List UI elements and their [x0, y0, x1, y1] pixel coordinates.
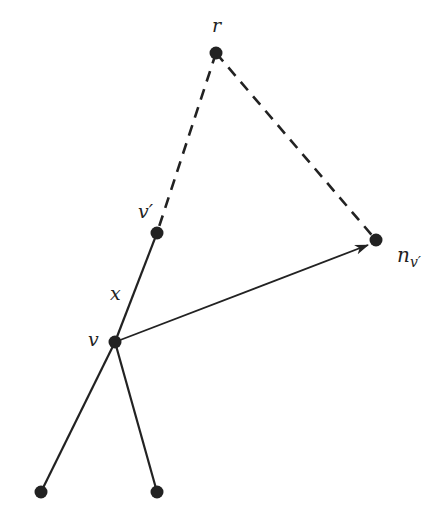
node-leaf-right	[151, 486, 164, 499]
node-v-prime	[151, 227, 164, 240]
label-n: n	[397, 243, 410, 267]
node-leaf-left	[35, 486, 48, 499]
edge-v-to-leaf-left	[41, 342, 115, 492]
node-n-v-prime	[370, 234, 383, 247]
arrow-v-to-n-v-prime	[115, 245, 368, 342]
node-v	[109, 336, 122, 349]
edge-r-to-n-v-prime	[216, 53, 376, 240]
label-v: v	[88, 328, 99, 350]
label-n-v-prime: nv′	[397, 243, 422, 270]
label-v-prime: v′	[138, 200, 154, 222]
tree-diagram: r v′ nv′ v x	[0, 0, 447, 515]
label-n-subscript: v′	[410, 254, 422, 270]
label-r: r	[212, 14, 223, 36]
label-edge-x: x	[110, 282, 121, 304]
edge-v-to-leaf-right	[115, 342, 157, 492]
edge-v-prime-to-v	[115, 233, 157, 342]
edge-r-to-v-prime	[157, 53, 216, 233]
node-r	[210, 47, 223, 60]
